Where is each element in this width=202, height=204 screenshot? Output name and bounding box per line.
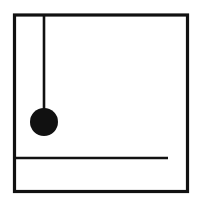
pendulum-diagram — [0, 0, 202, 204]
canvas-background — [0, 0, 202, 204]
pendulum-figure-container — [0, 0, 202, 204]
pendulum-bob — [30, 108, 58, 136]
